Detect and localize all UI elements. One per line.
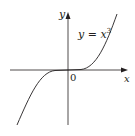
y-axis-arrow-icon	[66, 12, 71, 19]
origin-label: 0	[70, 73, 76, 83]
function-label-base: y = x	[78, 28, 107, 41]
x-axis-label: x	[124, 74, 130, 84]
y-axis-label: y	[59, 9, 65, 20]
graph-canvas	[0, 0, 135, 136]
x-axis-arrow-icon	[121, 68, 128, 73]
function-label: y = x3	[78, 28, 111, 40]
function-label-exponent: 3	[107, 27, 111, 35]
